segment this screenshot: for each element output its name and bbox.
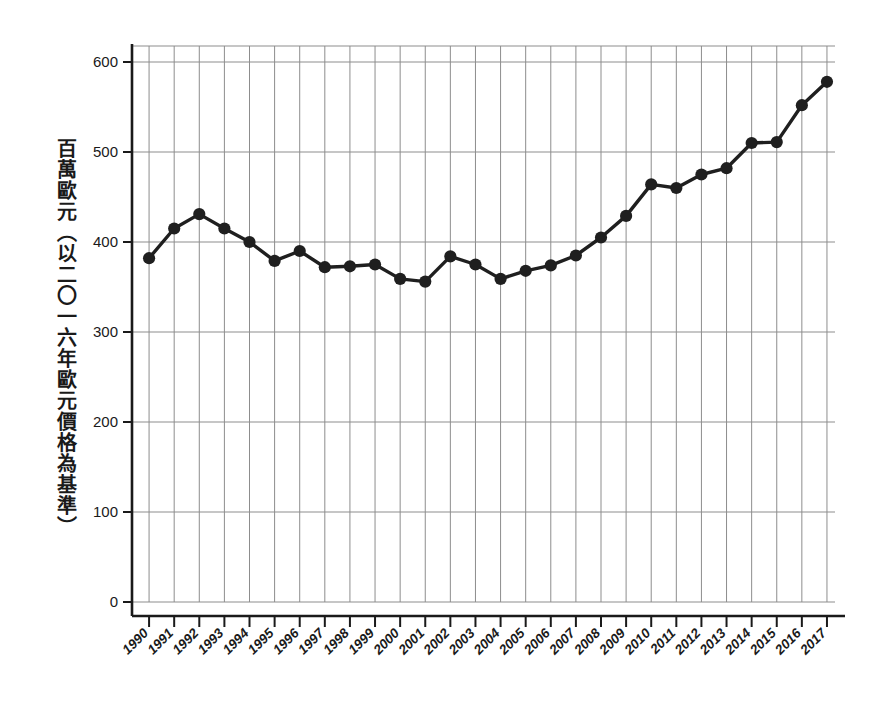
- x-tick-label: 1992: [170, 625, 202, 657]
- x-tick-label: 2001: [395, 626, 428, 659]
- data-point-marker[interactable]: [821, 76, 833, 88]
- data-point-marker[interactable]: [143, 252, 155, 264]
- x-tick-label: 2017: [797, 624, 831, 658]
- x-tick-label: 2012: [671, 625, 704, 658]
- line-chart-plot: 0100200300400500600199019911992199319941…: [0, 0, 872, 706]
- data-point-marker[interactable]: [469, 258, 481, 270]
- x-tick-label: 2016: [771, 625, 804, 658]
- data-point-marker[interactable]: [771, 136, 783, 148]
- x-tick-label: 2010: [621, 625, 654, 658]
- y-axis-title-text: 百萬歐元（以二〇一六年歐元價格為基準）: [55, 138, 76, 537]
- data-point-marker[interactable]: [595, 231, 607, 243]
- data-point-marker[interactable]: [494, 273, 506, 285]
- data-point-marker[interactable]: [193, 208, 205, 220]
- data-point-marker[interactable]: [645, 178, 657, 190]
- x-tick-label: 1999: [345, 625, 377, 657]
- data-point-marker[interactable]: [243, 236, 255, 248]
- data-point-marker[interactable]: [269, 255, 281, 267]
- x-tick-label: 2014: [721, 625, 754, 658]
- x-tick-label: 1996: [270, 625, 302, 657]
- data-point-marker[interactable]: [394, 273, 406, 285]
- data-point-marker[interactable]: [344, 260, 356, 272]
- data-point-marker[interactable]: [294, 245, 306, 257]
- y-tick-label: 200: [93, 413, 118, 430]
- y-axis-title: 百萬歐元（以二〇一六年歐元價格為基準）: [36, 138, 94, 548]
- data-point-marker[interactable]: [670, 182, 682, 194]
- data-point-marker[interactable]: [720, 162, 732, 174]
- y-tick-label: 0: [110, 593, 118, 610]
- data-point-marker[interactable]: [545, 259, 557, 271]
- x-tick-label: 2013: [696, 625, 729, 658]
- data-point-marker[interactable]: [695, 168, 707, 180]
- x-tick-label: 2007: [545, 624, 579, 658]
- x-tick-label: 2008: [571, 625, 604, 658]
- data-point-marker[interactable]: [369, 258, 381, 270]
- y-tick-label: 400: [93, 233, 118, 250]
- data-point-marker[interactable]: [419, 276, 431, 288]
- x-tick-label: 1998: [320, 625, 352, 657]
- data-point-marker[interactable]: [746, 137, 758, 149]
- x-tick-label: 1995: [245, 625, 277, 657]
- x-tick-label: 2003: [445, 625, 478, 658]
- data-point-marker[interactable]: [570, 249, 582, 261]
- y-tick-label: 300: [93, 323, 118, 340]
- y-tick-label: 100: [93, 503, 118, 520]
- x-tick-label: 2011: [647, 626, 679, 658]
- data-point-marker[interactable]: [218, 222, 230, 234]
- x-tick-label: 1991: [144, 626, 176, 658]
- y-tick-label: 600: [93, 53, 118, 70]
- x-tick-label: 2006: [520, 625, 553, 658]
- data-point-marker[interactable]: [319, 261, 331, 273]
- x-tick-label: 2000: [370, 625, 403, 658]
- y-tick-label: 500: [93, 143, 118, 160]
- x-tick-label: 1994: [220, 625, 252, 657]
- data-point-marker[interactable]: [620, 210, 632, 222]
- data-point-marker[interactable]: [796, 99, 808, 111]
- x-tick-label: 1997: [295, 624, 328, 657]
- data-point-marker[interactable]: [520, 265, 532, 277]
- chart-figure: 百萬歐元（以二〇一六年歐元價格為基準） 01002003004005006001…: [0, 0, 872, 706]
- data-point-marker[interactable]: [444, 250, 456, 262]
- data-point-marker[interactable]: [168, 222, 180, 234]
- x-tick-label: 1993: [195, 625, 227, 657]
- x-tick-label: 2002: [420, 625, 453, 658]
- series-line: [149, 82, 827, 282]
- x-tick-label: 2015: [746, 625, 779, 658]
- x-tick-label: 2005: [495, 625, 528, 658]
- x-tick-label: 2009: [596, 625, 629, 658]
- x-tick-label: 1990: [119, 625, 151, 657]
- x-tick-label: 2004: [470, 625, 503, 658]
